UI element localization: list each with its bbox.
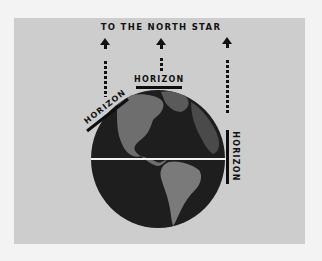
horizon-line-top [136, 86, 182, 89]
dashed-line [160, 58, 163, 73]
arrow-stem [160, 45, 163, 49]
horizon-group-right: HORIZON [232, 130, 242, 184]
dashed-line [104, 61, 107, 97]
arrow-up-icon [222, 37, 232, 44]
diagram-title: TO THE NORTH STAR [0, 22, 322, 32]
horizon-label-top: HORIZON [134, 75, 184, 84]
arrow-up-icon [100, 38, 110, 45]
horizon-line-right [226, 130, 229, 184]
arrow-stem [226, 44, 229, 48]
horizon-label-right: HORIZON [231, 131, 240, 181]
arrow-up-icon [156, 38, 166, 45]
dashed-line [226, 60, 229, 114]
arrow-stem [104, 45, 107, 49]
equator-line [91, 158, 226, 160]
